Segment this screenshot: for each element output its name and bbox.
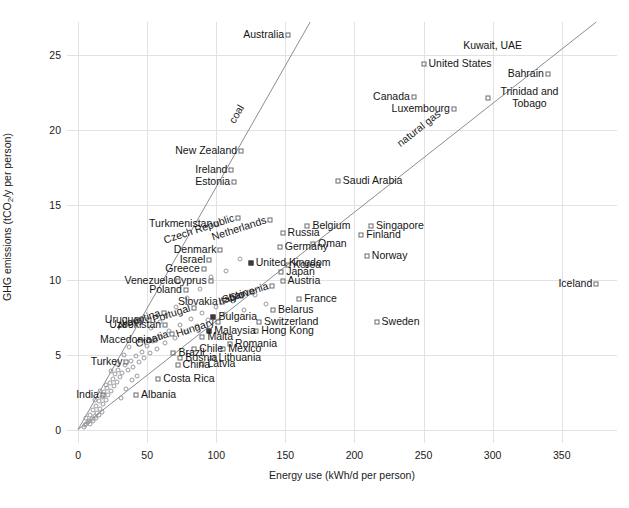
- data-point-costa-rica: [156, 376, 161, 381]
- label-albania: Albania: [141, 389, 176, 401]
- data-point-malta: [200, 334, 205, 339]
- data-point: [99, 409, 104, 414]
- data-point: [109, 388, 114, 393]
- data-point-uzbekistan: [163, 322, 168, 327]
- label-canada: Canada: [373, 91, 410, 103]
- data-point-bahrain: [545, 72, 550, 77]
- x-tick-label: 150: [277, 449, 295, 461]
- data-point-belarus: [270, 307, 275, 312]
- data-point-estonia: [232, 180, 237, 185]
- data-point: [135, 373, 140, 378]
- data-point: [81, 424, 86, 429]
- x-tick-label: 100: [207, 449, 225, 461]
- data-point-croatia: [170, 331, 175, 336]
- data-point-norway: [364, 253, 369, 258]
- y-axis-title-subscript: 2: [6, 198, 15, 202]
- data-point: [200, 310, 205, 315]
- label-austria: Austria: [288, 275, 321, 287]
- y-tick-label: 25: [39, 49, 61, 61]
- label-trinidad-and-tobago: Trinidad andTobago: [493, 87, 565, 111]
- data-point-poland: [183, 288, 188, 293]
- data-point: [125, 367, 130, 372]
- label-iceland: Iceland: [558, 278, 592, 290]
- label-finland: Finland: [366, 229, 400, 241]
- label-india: India: [76, 389, 99, 401]
- label-ireland: Ireland: [195, 164, 227, 176]
- data-point-australia: [286, 33, 291, 38]
- y-tick-label: 10: [39, 274, 61, 286]
- data-point-ireland: [229, 168, 234, 173]
- data-point: [124, 387, 129, 392]
- data-point: [103, 382, 108, 387]
- data-point-trinidad-and-tobago: [486, 96, 491, 101]
- data-point: [154, 346, 159, 351]
- label-greece: Greece: [165, 263, 199, 275]
- label-kuwait-uae: Kuwait, UAE: [463, 40, 522, 52]
- x-tick-label: 50: [141, 449, 153, 461]
- label-uzbekistan: Uzbekistan: [109, 319, 161, 331]
- label-bulgaria: Bulgaria: [218, 311, 257, 323]
- data-point-greece: [201, 267, 206, 272]
- label-saudi-arabia: Saudi Arabia: [343, 175, 403, 187]
- data-point-india: [100, 393, 105, 398]
- data-point-denmark: [218, 247, 223, 252]
- data-point: [142, 355, 147, 360]
- label-oman: Oman: [318, 238, 347, 250]
- label-macedonia: Macedonia: [100, 334, 151, 346]
- data-point-cyprus: [208, 279, 213, 284]
- data-point: [223, 268, 228, 273]
- data-point-france: [297, 297, 302, 302]
- y-axis-title-pre: GHG emissions (tCO: [1, 202, 13, 301]
- label-bahrain: Bahrain: [508, 69, 544, 81]
- data-point: [263, 301, 268, 306]
- label-estonia: Estonia: [195, 176, 230, 188]
- label-united-states: United States: [429, 58, 492, 70]
- data-point-new-zealand: [239, 148, 244, 153]
- data-point: [136, 360, 141, 365]
- label-australia: Australia: [243, 30, 284, 42]
- data-point: [111, 384, 116, 389]
- data-point: [134, 354, 139, 359]
- y-tick-label: 0: [39, 424, 61, 436]
- plot-area: AustraliaKuwait, UAEUnited StatesBahrain…: [67, 22, 617, 443]
- data-point-united-states: [421, 61, 426, 66]
- data-point: [100, 402, 105, 407]
- y-tick-label: 5: [39, 349, 61, 361]
- y-tick-label: 15: [39, 199, 61, 211]
- scatter-chart: GHG emissions (tCO2/y per person) Austra…: [0, 0, 629, 508]
- data-point-brazil: [171, 351, 176, 356]
- data-point-slovenia: [269, 283, 274, 288]
- data-point: [237, 256, 242, 261]
- data-point: [147, 351, 152, 356]
- label-hong-kong: Hong Kong: [261, 325, 314, 337]
- data-point: [114, 379, 119, 384]
- label-china: China: [183, 359, 210, 371]
- data-point-united-kingdom: [248, 261, 253, 266]
- label-turkey: Turkey: [91, 356, 123, 368]
- x-tick-label: 0: [75, 449, 81, 461]
- data-point: [118, 396, 123, 401]
- data-point-canada: [411, 94, 416, 99]
- label-malta: Malta: [207, 331, 233, 343]
- data-point: [139, 349, 144, 354]
- label-poland: Poland: [149, 284, 182, 296]
- data-point-iceland: [594, 282, 599, 287]
- x-axis-title: Energy use (kWh/d per person): [67, 469, 617, 481]
- data-point-albania: [134, 393, 139, 398]
- data-point: [120, 370, 125, 375]
- label-norway: Norway: [372, 250, 408, 262]
- data-point: [84, 415, 89, 420]
- data-point-austria: [280, 279, 285, 284]
- label-belarus: Belarus: [278, 304, 314, 316]
- x-tick-label: 300: [484, 449, 502, 461]
- data-point: [106, 393, 111, 398]
- data-point: [109, 369, 114, 374]
- data-point-russia: [280, 231, 285, 236]
- data-point-finland: [359, 232, 364, 237]
- data-point-japan: [279, 270, 284, 275]
- y-axis-title: GHG emissions (tCO2/y per person): [1, 37, 15, 397]
- label-luxembourg: Luxembourg: [392, 103, 450, 115]
- label-costa-rica: Costa Rica: [163, 373, 214, 385]
- label-latvia: Latvia: [207, 358, 235, 370]
- data-point-saudi-arabia: [335, 178, 340, 183]
